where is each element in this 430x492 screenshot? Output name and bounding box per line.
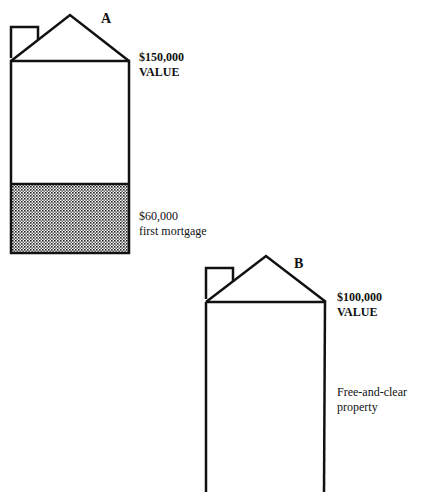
house-a-mortgage-area [11, 184, 129, 253]
house-b-status-caption: property [337, 400, 378, 415]
house-b-value: $100,000 [337, 290, 382, 305]
house-b-value-caption: VALUE [337, 305, 377, 320]
houses-diagram [0, 0, 430, 492]
house-b-status: Free-and-clear [337, 385, 407, 400]
house-a-mortgage-caption: first mortgage [139, 224, 207, 239]
house-a-value: $150,000 [139, 50, 184, 65]
house-b-roof [206, 256, 326, 302]
house-a [11, 15, 129, 253]
house-a-label: A [101, 11, 111, 26]
house-a-mortgage-amount: $60,000 [139, 209, 178, 224]
house-b [206, 256, 326, 492]
house-b-label: B [294, 256, 303, 271]
house-a-value-caption: VALUE [139, 65, 179, 80]
house-a-roof [11, 15, 129, 61]
